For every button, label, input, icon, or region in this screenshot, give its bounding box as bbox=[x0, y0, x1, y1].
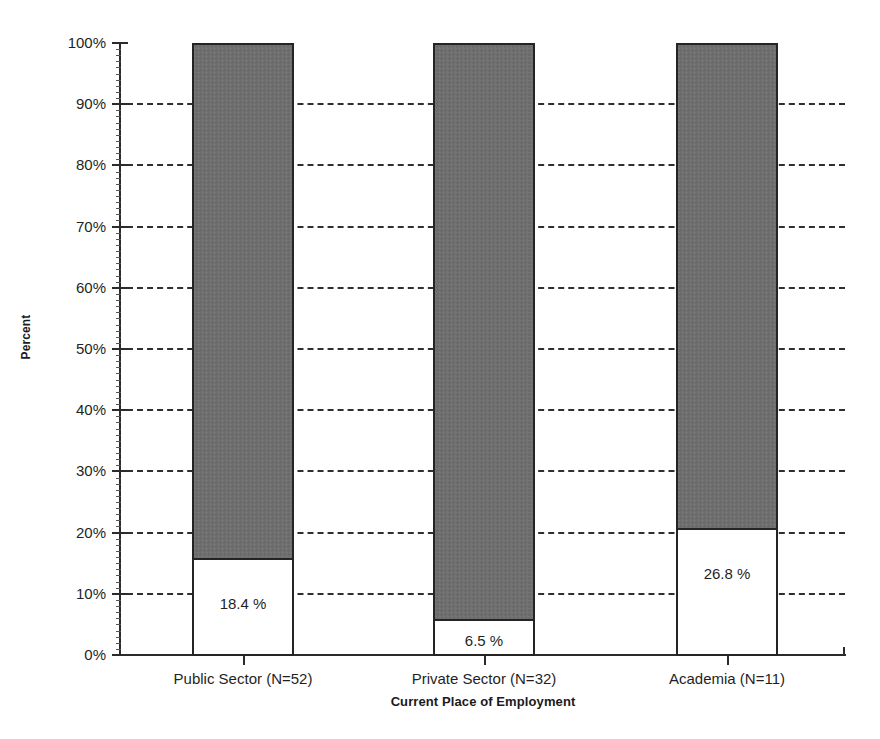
y-axis-minor-tick bbox=[116, 453, 121, 454]
y-axis-tick bbox=[112, 103, 128, 105]
y-axis-minor-tick bbox=[116, 123, 121, 124]
x-axis-tick bbox=[484, 656, 486, 665]
y-axis-minor-tick bbox=[116, 637, 121, 638]
x-axis-tick bbox=[727, 656, 729, 665]
y-axis-minor-tick bbox=[116, 196, 121, 197]
y-axis-minor-tick bbox=[116, 55, 121, 56]
y-axis-minor-tick bbox=[116, 600, 121, 601]
y-axis-tick-label: 70% bbox=[40, 219, 106, 234]
y-axis-minor-tick bbox=[116, 478, 121, 479]
y-axis-minor-tick bbox=[116, 588, 121, 589]
y-axis-minor-tick bbox=[116, 380, 121, 381]
y-axis-tick bbox=[112, 226, 128, 228]
y-axis-minor-tick bbox=[116, 624, 121, 625]
chart-figure: Percent 100%90%80%70%60%50%40%30%20%10%0… bbox=[0, 0, 880, 739]
y-axis-tick bbox=[112, 654, 128, 656]
y-axis-minor-tick bbox=[116, 373, 121, 374]
y-axis-minor-tick bbox=[116, 343, 121, 344]
y-axis-minor-tick bbox=[116, 404, 121, 405]
bar-stack[interactable]: 18.4 % bbox=[192, 43, 294, 655]
y-axis-minor-tick bbox=[116, 508, 121, 509]
y-axis-tick-label: 40% bbox=[40, 402, 106, 417]
y-axis-minor-tick bbox=[116, 502, 121, 503]
y-axis-minor-tick bbox=[116, 631, 121, 632]
y-axis-minor-tick bbox=[116, 92, 121, 93]
y-axis-minor-tick bbox=[116, 569, 121, 570]
y-axis-tick-label: 90% bbox=[40, 96, 106, 111]
y-axis-minor-tick bbox=[116, 545, 121, 546]
bar-stack[interactable]: 6.5 % bbox=[433, 43, 535, 655]
y-axis-minor-tick bbox=[116, 606, 121, 607]
y-axis-minor-tick bbox=[116, 220, 121, 221]
y-axis-tick-label: 0% bbox=[40, 647, 106, 662]
y-axis-minor-tick bbox=[116, 526, 121, 527]
y-axis-tick bbox=[112, 348, 128, 350]
y-axis-tick-label-text: 30% bbox=[44, 463, 106, 478]
y-axis-tick-label-text: 80% bbox=[44, 157, 106, 172]
y-axis-minor-tick bbox=[116, 459, 121, 460]
y-axis-tick-label: 60% bbox=[40, 280, 106, 295]
y-axis-minor-tick bbox=[116, 331, 121, 332]
y-axis-minor-tick bbox=[116, 276, 121, 277]
y-axis-tick-label-text: 100% bbox=[44, 35, 106, 50]
y-axis-minor-tick bbox=[116, 539, 121, 540]
bar-value-label: 6.5 % bbox=[433, 633, 535, 649]
y-axis-tick bbox=[112, 593, 128, 595]
x-axis-category-label: Academia (N=11) bbox=[597, 670, 857, 688]
y-axis-minor-tick bbox=[116, 563, 121, 564]
y-axis-tick-label: 50% bbox=[40, 341, 106, 356]
y-axis-minor-tick bbox=[116, 184, 121, 185]
y-axis-tick-label-text: 10% bbox=[44, 586, 106, 601]
y-axis-minor-tick bbox=[116, 306, 121, 307]
y-axis-minor-tick bbox=[116, 520, 121, 521]
bar-segment-upper[interactable] bbox=[676, 43, 778, 530]
y-axis-tick bbox=[112, 532, 128, 534]
y-axis-minor-tick bbox=[116, 429, 121, 430]
y-axis-tick-label: 80% bbox=[40, 157, 106, 172]
y-axis-minor-tick bbox=[116, 392, 121, 393]
x-axis-category-label: Public Sector (N=52) bbox=[113, 670, 373, 688]
y-axis-minor-tick bbox=[116, 153, 121, 154]
y-axis-tick bbox=[112, 164, 128, 166]
y-axis-minor-tick bbox=[116, 496, 121, 497]
y-axis-minor-tick bbox=[116, 263, 121, 264]
bar-segment-upper[interactable] bbox=[433, 43, 535, 621]
y-axis-tick bbox=[112, 470, 128, 472]
y-axis-minor-tick bbox=[116, 557, 121, 558]
x-axis-category-label: Private Sector (N=32) bbox=[354, 670, 614, 688]
y-axis-minor-tick bbox=[116, 325, 121, 326]
y-axis-minor-tick bbox=[116, 159, 121, 160]
y-axis-minor-tick bbox=[116, 214, 121, 215]
y-axis-minor-tick bbox=[116, 86, 121, 87]
y-axis-minor-tick bbox=[116, 74, 121, 75]
y-axis-minor-tick bbox=[116, 239, 121, 240]
y-axis-minor-tick bbox=[116, 233, 121, 234]
y-axis-minor-tick bbox=[116, 312, 121, 313]
y-axis-tick-label: 100% bbox=[40, 35, 106, 50]
y-axis-minor-tick bbox=[116, 282, 121, 283]
y-axis-minor-tick bbox=[116, 294, 121, 295]
bar-segment-lower[interactable] bbox=[676, 528, 778, 656]
y-axis-minor-tick bbox=[116, 98, 121, 99]
y-axis-tick-label: 30% bbox=[40, 463, 106, 478]
y-axis-minor-tick bbox=[116, 618, 121, 619]
y-axis-tick-label: 10% bbox=[40, 586, 106, 601]
y-axis-minor-tick bbox=[116, 649, 121, 650]
y-axis-minor-tick bbox=[116, 490, 121, 491]
y-axis-minor-tick bbox=[116, 465, 121, 466]
y-axis-tick-label-text: 50% bbox=[44, 341, 106, 356]
y-axis-minor-tick bbox=[116, 251, 121, 252]
y-axis-minor-tick bbox=[116, 398, 121, 399]
y-axis-minor-tick bbox=[116, 178, 121, 179]
y-axis-minor-tick bbox=[116, 67, 121, 68]
y-axis-minor-tick bbox=[116, 61, 121, 62]
y-axis-minor-tick bbox=[116, 416, 121, 417]
bar-stack[interactable]: 26.8 % bbox=[676, 43, 778, 655]
y-axis-minor-tick bbox=[116, 643, 121, 644]
y-axis-minor-tick bbox=[116, 110, 121, 111]
bar-segment-upper[interactable] bbox=[192, 43, 294, 560]
y-axis-minor-tick bbox=[116, 116, 121, 117]
y-axis-minor-tick bbox=[116, 141, 121, 142]
y-axis-minor-tick bbox=[116, 257, 121, 258]
y-axis-tick bbox=[112, 409, 128, 411]
